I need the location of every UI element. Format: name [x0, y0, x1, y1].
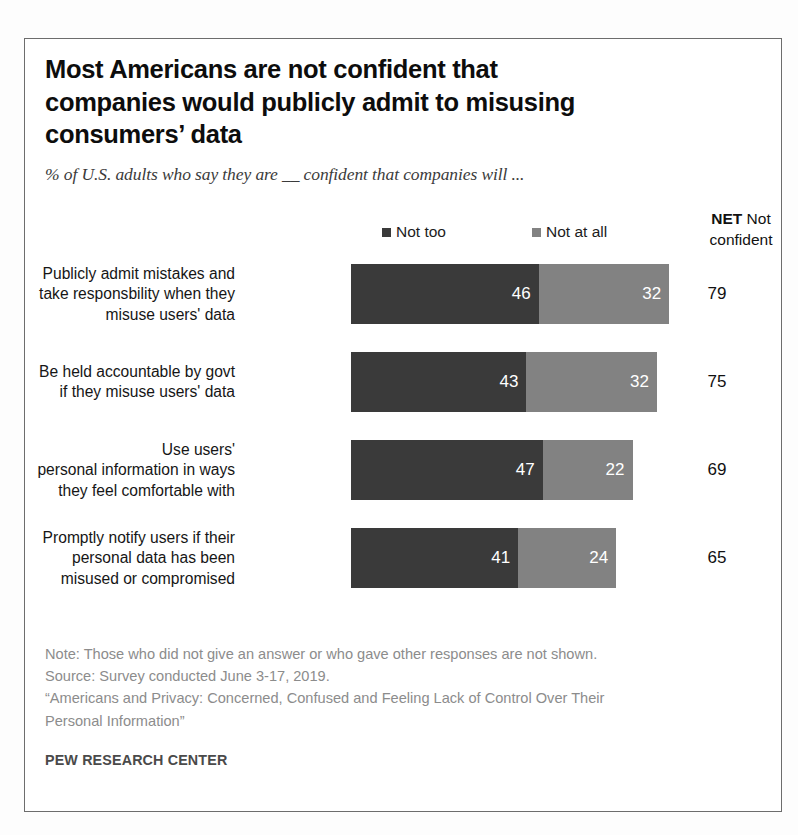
chart-row-bar: 4332: [351, 352, 671, 412]
bar-value-not-too: 43: [500, 372, 519, 392]
chart-row: Promptly notify users if theirpersonal d…: [45, 514, 797, 602]
chart-row-label: Promptly notify users if theirpersonal d…: [0, 528, 235, 589]
chart-row-label: Be held accountable by govtif they misus…: [0, 362, 235, 403]
attribution-pew-research-center: PEW RESEARCH CENTER: [45, 752, 745, 768]
bar-value-not-at-all: 24: [589, 548, 608, 568]
bar-value-not-too: 47: [516, 460, 535, 480]
footnote-report-line1: “Americans and Privacy: Concerned, Confu…: [45, 687, 745, 709]
bar-segment-not-at-all: 32: [539, 264, 670, 324]
chart-subtitle: % of U.S. adults who say they are __ con…: [45, 164, 767, 185]
chart-legend: Not too Not at all: [356, 223, 656, 245]
chart-row-label: Publicly admit mistakes andtake responsb…: [0, 264, 235, 325]
net-column-header: NET Not confident: [685, 208, 797, 251]
chart-row-label: Use users'personal information in waysth…: [0, 440, 235, 501]
footnote-report-line2: Personal Information”: [45, 710, 745, 732]
chart-page: Most Americans are not confident that co…: [0, 0, 798, 835]
bar-segment-not-too: 41: [351, 528, 518, 588]
footnote-source: Source: Survey conducted June 3-17, 2019…: [45, 665, 745, 687]
legend-swatch-not-too: [382, 228, 391, 237]
net-value: 65: [661, 548, 773, 568]
legend-swatch-not-at-all: [532, 228, 541, 237]
chart-frame: Most Americans are not confident that co…: [24, 38, 782, 812]
footnote-note: Note: Those who did not give an answer o…: [45, 643, 745, 665]
chart-row: Use users'personal information in waysth…: [45, 426, 797, 514]
net-header-bold: NET: [711, 210, 742, 227]
page-title: Most Americans are not confident that co…: [45, 53, 625, 151]
chart-inner: Most Americans are not confident that co…: [45, 53, 767, 801]
legend-label-not-too: Not too: [396, 223, 446, 241]
bar-segment-not-too: 47: [351, 440, 543, 500]
chart-row: Be held accountable by govtif they misus…: [45, 338, 797, 426]
bar-segment-not-at-all: 32: [526, 352, 657, 412]
bar-value-not-too: 41: [491, 548, 510, 568]
chart-rows: Publicly admit mistakes andtake responsb…: [45, 250, 797, 602]
bar-segment-not-too: 43: [351, 352, 526, 412]
bar-segment-not-too: 46: [351, 264, 539, 324]
chart-row-bar: 4124: [351, 528, 671, 588]
chart-row-bar: 4632: [351, 264, 671, 324]
bar-value-not-too: 46: [512, 284, 531, 304]
chart-row: Publicly admit mistakes andtake responsb…: [45, 250, 797, 338]
net-value: 69: [661, 460, 773, 480]
net-value: 79: [661, 284, 773, 304]
legend-item-not-at-all: Not at all: [532, 223, 607, 241]
net-value: 75: [661, 372, 773, 392]
bar-value-not-at-all: 32: [630, 372, 649, 392]
bar-segment-not-at-all: 24: [518, 528, 616, 588]
chart-footer: Note: Those who did not give an answer o…: [45, 643, 745, 768]
bar-value-not-at-all: 22: [606, 460, 625, 480]
chart-row-bar: 4722: [351, 440, 671, 500]
bar-value-not-at-all: 32: [642, 284, 661, 304]
bar-segment-not-at-all: 22: [543, 440, 633, 500]
legend-label-not-at-all: Not at all: [546, 223, 607, 241]
legend-item-not-too: Not too: [382, 223, 446, 241]
